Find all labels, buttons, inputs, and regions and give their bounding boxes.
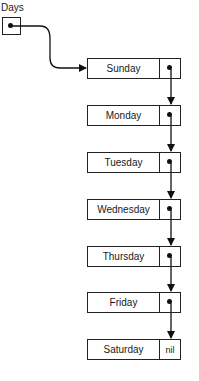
list-node-sunday: Sunday <box>87 58 181 79</box>
node-value: Monday <box>88 106 160 125</box>
nil-terminator: nil <box>160 340 180 359</box>
node-pointer-cell <box>160 200 180 219</box>
node-pointer-cell <box>160 106 180 125</box>
list-node-tuesday: Tuesday <box>87 152 181 173</box>
node-value: Sunday <box>88 59 160 78</box>
node-value: Tuesday <box>88 153 160 172</box>
node-pointer-cell <box>160 293 180 312</box>
node-pointer-cell <box>160 247 180 266</box>
pointer-dot-icon <box>167 299 172 304</box>
node-value: Friday <box>88 293 160 312</box>
pointer-dot-icon <box>167 65 172 70</box>
list-node-saturday: Saturday nil <box>87 339 181 360</box>
list-node-monday: Monday <box>87 105 181 126</box>
pointer-dot-icon <box>167 253 172 258</box>
pointer-dot-icon <box>167 159 172 164</box>
pointer-dot-icon <box>167 112 172 117</box>
node-pointer-cell <box>160 59 180 78</box>
node-value: Saturday <box>88 340 160 359</box>
node-value: Thursday <box>88 247 160 266</box>
list-node-wednesday: Wednesday <box>87 199 181 220</box>
list-node-friday: Friday <box>87 292 181 313</box>
node-value: Wednesday <box>88 200 160 219</box>
pointer-dot-icon <box>167 206 172 211</box>
list-node-thursday: Thursday <box>87 246 181 267</box>
node-pointer-cell <box>160 153 180 172</box>
